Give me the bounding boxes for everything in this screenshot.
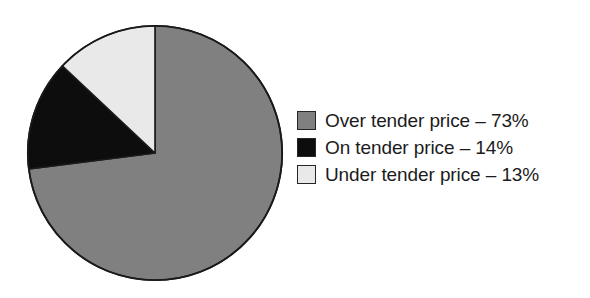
legend-swatch-under-tender-price [297, 165, 316, 184]
legend-item-on-tender-price: On tender price – 14% [297, 134, 582, 161]
legend-swatch-over-tender-price [297, 111, 316, 130]
pie-chart-figure: Over tender price – 73% On tender price … [0, 0, 590, 298]
chart-legend: Over tender price – 73% On tender price … [297, 107, 582, 188]
legend-item-under-tender-price: Under tender price – 13% [297, 161, 582, 188]
legend-label-under-tender-price: Under tender price – 13% [325, 164, 539, 185]
pie-slice-group [28, 26, 282, 280]
pie-chart-graphic [26, 24, 284, 282]
legend-item-over-tender-price: Over tender price – 73% [297, 107, 582, 134]
legend-label-on-tender-price: On tender price – 14% [325, 137, 513, 158]
legend-label-over-tender-price: Over tender price – 73% [325, 110, 529, 131]
pie-svg [26, 24, 284, 282]
legend-swatch-on-tender-price [297, 138, 316, 157]
